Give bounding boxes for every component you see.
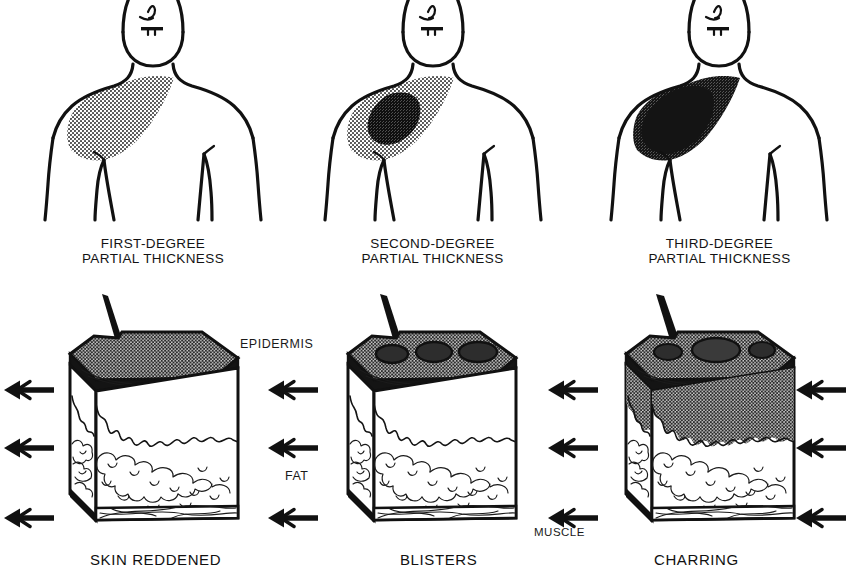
- arrow-column-3: [546, 376, 602, 528]
- bottom-label-second-degree: BLISTERS: [400, 551, 477, 568]
- front-face: [96, 368, 238, 520]
- arrow-fat: [268, 439, 318, 458]
- caption-first-degree: FIRST-DEGREE PARTIAL THICKNESS: [48, 236, 258, 266]
- bottom-label-first-degree: SKIN REDDENED: [90, 551, 221, 568]
- burn-degree-diagram: FIRST-DEGREE PARTIAL THICKNESS SECOND-DE…: [0, 0, 853, 584]
- arrow-muscle: [4, 509, 54, 528]
- burn-region-second-degree: [347, 76, 454, 161]
- front-face: [374, 368, 516, 520]
- torso-figure-second-degree: [302, 2, 564, 220]
- torso-figure-first-degree: [22, 2, 284, 220]
- skin-block-third-degree: [608, 292, 818, 532]
- torso-figure-third-degree: [588, 2, 850, 220]
- blister: [376, 345, 408, 363]
- blister: [749, 342, 775, 358]
- skin-block-first-degree: [52, 292, 262, 532]
- arrow-fat: [548, 439, 598, 458]
- blister: [654, 344, 682, 360]
- blister: [459, 342, 497, 362]
- arrow-column-left: [2, 376, 58, 528]
- blister-group: [376, 342, 497, 363]
- arrow-fat: [4, 439, 54, 458]
- arrow-muscle: [268, 509, 318, 528]
- burn-region-first-degree: [67, 76, 174, 161]
- bottom-label-third-degree: CHARRING: [654, 551, 739, 568]
- burn-region-third-degree: [633, 76, 740, 161]
- arrow-epidermis: [4, 381, 54, 400]
- label-muscle: MUSCLE: [534, 526, 585, 538]
- blister: [692, 338, 740, 362]
- arrow-epidermis: [548, 381, 598, 400]
- arrow-column-2: [266, 376, 322, 528]
- arrow-muscle: [548, 509, 598, 528]
- label-epidermis: EPIDERMIS: [240, 337, 313, 351]
- skin-block-second-degree: [330, 292, 540, 532]
- label-fat: FAT: [285, 469, 309, 483]
- arrow-epidermis: [268, 381, 318, 400]
- blister: [416, 342, 452, 362]
- caption-second-degree: SECOND-DEGREE PARTIAL THICKNESS: [325, 236, 540, 266]
- caption-third-degree: THIRD-DEGREE PARTIAL THICKNESS: [612, 236, 827, 266]
